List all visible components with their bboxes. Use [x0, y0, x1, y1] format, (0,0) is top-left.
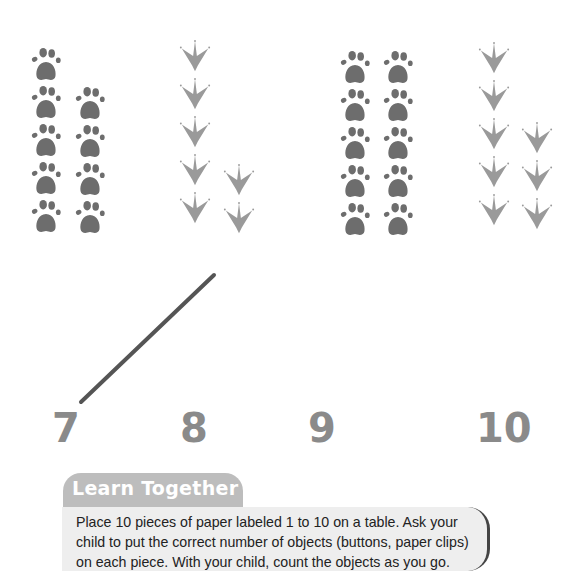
number-ten: 10: [476, 408, 532, 448]
number-eight: 8: [180, 408, 208, 448]
learn-together-title: Learn Together: [72, 477, 238, 499]
learn-together-body: Place 10 pieces of paper labeled 1 to 10…: [76, 512, 486, 571]
number-nine: 9: [308, 408, 336, 448]
number-seven: 7: [52, 408, 80, 448]
